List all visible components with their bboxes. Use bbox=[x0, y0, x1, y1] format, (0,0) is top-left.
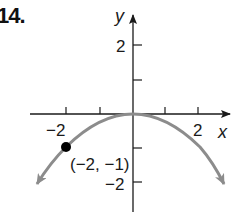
x-axis-label: x bbox=[217, 122, 228, 142]
y-axis-label: y bbox=[113, 6, 125, 26]
point-neg2-neg1 bbox=[61, 142, 71, 152]
y-tick-label-2: 2 bbox=[116, 37, 125, 56]
parabola-curve-right bbox=[133, 114, 224, 184]
point-label: (−2, −1) bbox=[70, 155, 130, 174]
graph: y x 2 −2 −2 2 (−2, −1) bbox=[0, 0, 233, 212]
x-tick-label-neg2: −2 bbox=[46, 121, 65, 140]
x-tick-label-2: 2 bbox=[193, 121, 202, 140]
y-tick-label-neg2: −2 bbox=[105, 175, 124, 194]
